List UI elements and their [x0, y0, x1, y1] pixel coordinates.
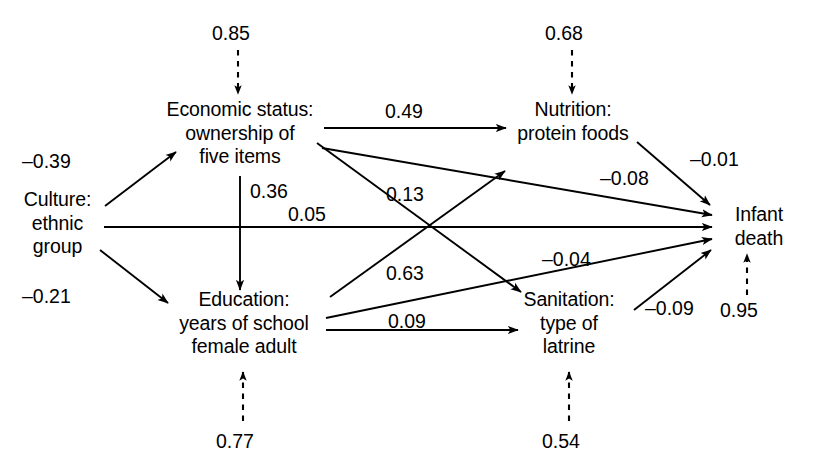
- node-economic-line-2: ownership of: [152, 122, 328, 146]
- node-culture: Culture: ethnic group: [5, 188, 110, 259]
- node-economic-status: Economic status: ownership of five items: [152, 98, 328, 169]
- coef-0.36: 0.36: [250, 180, 288, 202]
- coef-0.09: 0.09: [388, 310, 426, 332]
- coef--0.04: –0.04: [542, 248, 591, 270]
- node-culture-line-3: group: [5, 235, 110, 259]
- coef-0.77: 0.77: [216, 430, 254, 452]
- node-economic-line-3: five items: [152, 145, 328, 169]
- node-education-line-2: years of school: [156, 312, 332, 336]
- path-diagram: Culture: ethnic group Economic status: o…: [0, 0, 817, 476]
- node-sanitation: Sanitation: type of latrine: [508, 288, 630, 359]
- node-nutrition-line-1: Nutrition:: [504, 98, 642, 122]
- node-sanitation-line-2: type of: [508, 312, 630, 336]
- coef--0.39: –0.39: [22, 150, 71, 172]
- node-culture-line-2: ethnic: [5, 212, 110, 236]
- node-infant-line-2: death: [716, 227, 802, 251]
- coef-0.85: 0.85: [212, 22, 250, 44]
- coef--0.08: –0.08: [600, 167, 649, 189]
- coef-0.68: 0.68: [545, 22, 583, 44]
- path-arrows-layer: [0, 0, 817, 476]
- node-economic-line-1: Economic status:: [152, 98, 328, 122]
- node-education-line-1: Education:: [156, 288, 332, 312]
- node-sanitation-line-3: latrine: [508, 335, 630, 359]
- node-education: Education: years of school female adult: [156, 288, 332, 359]
- node-sanitation-line-1: Sanitation:: [508, 288, 630, 312]
- node-infant-line-1: Infant: [716, 203, 802, 227]
- coef-0.95: 0.95: [720, 299, 758, 321]
- coef-0.13: 0.13: [386, 183, 424, 205]
- node-education-line-3: female adult: [156, 335, 332, 359]
- node-nutrition-line-2: protein foods: [504, 122, 642, 146]
- node-nutrition: Nutrition: protein foods: [504, 98, 642, 145]
- coef--0.01: –0.01: [690, 148, 739, 170]
- coef-0.05: 0.05: [288, 203, 326, 225]
- coef--0.21: –0.21: [22, 285, 71, 307]
- node-infant-death: Infant death: [716, 203, 802, 250]
- coef--0.09: –0.09: [645, 297, 694, 319]
- node-culture-line-1: Culture:: [5, 188, 110, 212]
- coef-0.54: 0.54: [542, 430, 580, 452]
- arrow-economic-to-infant: [322, 148, 712, 215]
- coef-0.63: 0.63: [386, 262, 424, 284]
- coef-0.49: 0.49: [385, 100, 423, 122]
